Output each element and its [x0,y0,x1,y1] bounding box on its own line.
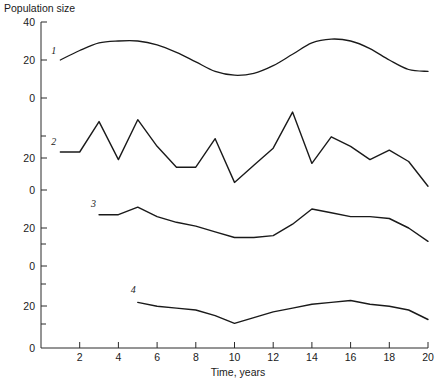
y-tick-label: 20 [23,222,35,234]
y-tick-label: 40 [23,16,35,28]
curve-series-3 [99,207,428,241]
curve-series-4 [138,301,428,324]
data-curves [60,39,428,323]
x-tick-label: 18 [383,351,395,363]
x-tick-label: 12 [267,351,279,363]
x-tick-label: 4 [115,351,121,363]
series-label-3: 3 [90,198,96,209]
series-label-1: 1 [51,45,56,56]
y-axis-tick-labels: 40200200200200 [23,16,35,354]
y-tick-label: 20 [23,152,35,164]
y-axis-title: Population size [4,2,75,14]
curve-series-2 [60,112,428,186]
x-tick-label: 2 [77,351,83,363]
y-tick-label: 20 [23,54,35,66]
y-tick-label: 0 [29,92,35,104]
x-tick-label: 8 [193,351,199,363]
series-labels: 1234 [51,45,135,295]
x-tick-label: 14 [306,351,318,363]
x-tick-label: 16 [345,351,357,363]
x-tick-label: 10 [229,351,241,363]
x-axis-title: Time, years [211,366,265,378]
population-time-chart: Population size 40200200200200 246810121… [0,0,440,382]
x-axis-ticks [80,342,428,348]
y-tick-label: 0 [29,260,35,272]
y-tick-label: 20 [23,300,35,312]
y-tick-label: 0 [29,342,35,354]
x-axis-tick-labels: 2468101214161820 [77,351,434,363]
y-axis-ticks [41,22,47,324]
y-tick-label: 0 [29,184,35,196]
curve-series-1 [60,39,428,75]
series-label-2: 2 [51,136,56,147]
x-tick-label: 20 [422,351,434,363]
series-label-4: 4 [131,284,136,295]
chart-canvas: Population size 40200200200200 246810121… [0,0,440,382]
x-tick-label: 6 [154,351,160,363]
